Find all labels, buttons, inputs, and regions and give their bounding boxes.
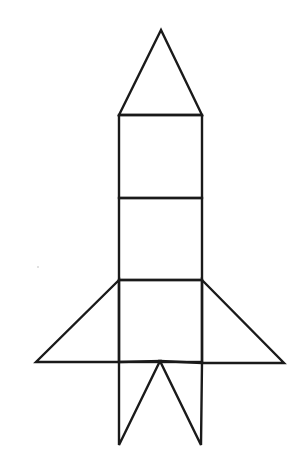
left-exhaust-triangle xyxy=(119,361,160,445)
left-fin-triangle xyxy=(36,280,119,362)
rocket-diagram: Rocket made of geometric shapes xyxy=(0,0,308,474)
body-lower-square xyxy=(119,280,202,362)
nose-cone-triangle xyxy=(119,30,202,115)
right-exhaust-triangle xyxy=(160,361,202,445)
scan-speck xyxy=(37,266,39,268)
body-upper-square xyxy=(119,115,202,198)
body-middle-square xyxy=(119,198,202,280)
rocket-svg: Rocket made of geometric shapes xyxy=(0,0,308,474)
rocket-shapes xyxy=(36,30,284,445)
right-fin-triangle xyxy=(202,280,284,363)
